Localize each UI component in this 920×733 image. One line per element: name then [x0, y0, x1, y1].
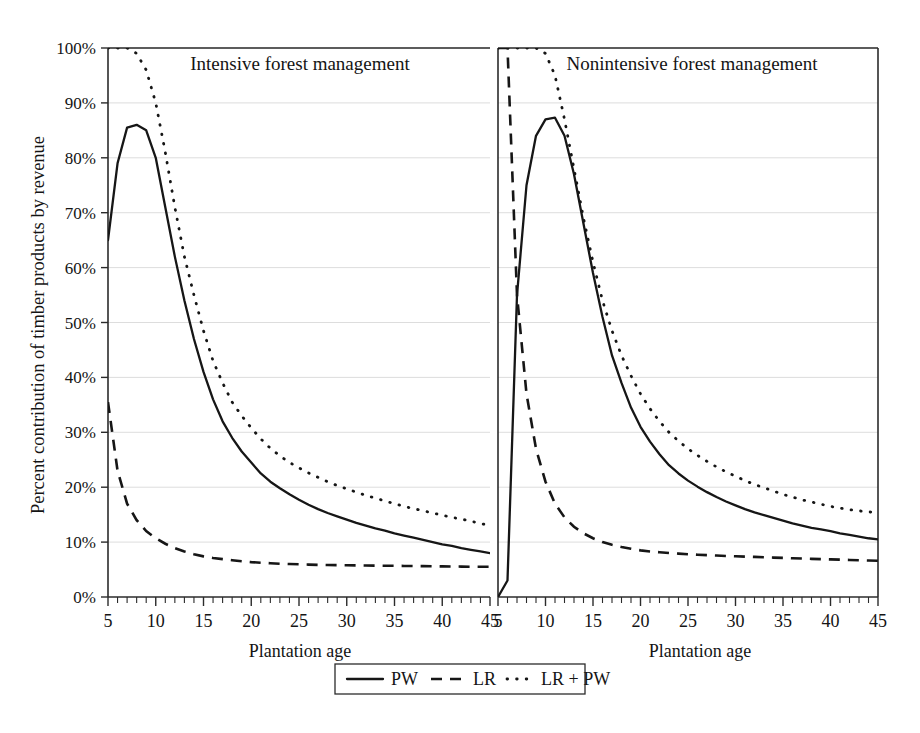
y-axis-tick-label: 0% [73, 588, 96, 607]
x-axis-tick-label: 25 [679, 611, 697, 631]
x-axis-tick-label: 5 [104, 611, 113, 631]
x-axis-tick-label: 40 [822, 611, 840, 631]
x-axis-tick-label: 25 [290, 611, 308, 631]
x-axis-tick-label: 20 [242, 611, 260, 631]
legend-label-lr-pw: LR + PW [541, 669, 610, 689]
chart-canvas: Percent contribution of timber products … [0, 0, 920, 733]
x-axis-tick-label: 40 [433, 611, 451, 631]
x-axis-tick-label: 10 [147, 611, 165, 631]
y-axis-tick-label: 80% [65, 149, 96, 168]
x-axis-tick-label: 30 [338, 611, 356, 631]
series-line-pw [498, 118, 878, 597]
y-axis-tick-label: 90% [65, 94, 96, 113]
y-axis-title: Percent contribution of timber products … [28, 136, 48, 514]
series-line-pw [108, 125, 490, 553]
y-axis-tick-label: 70% [65, 204, 96, 223]
y-axis-tick-label: 10% [65, 533, 96, 552]
y-axis-tick-label: 40% [65, 368, 96, 387]
x-axis-tick-label: 35 [774, 611, 792, 631]
chart-legend: PWLRLR + PW [335, 664, 610, 694]
x-axis-tick-label: 45 [869, 611, 887, 631]
chart-figure: Percent contribution of timber products … [0, 0, 920, 733]
x-axis-tick-label: 15 [584, 611, 602, 631]
y-axis-tick-label: 20% [65, 478, 96, 497]
panel-title: Intensive forest management [190, 53, 410, 74]
legend-label-lr: LR [473, 669, 496, 689]
y-axis-tick-label: 30% [65, 423, 96, 442]
x-axis-tick-label: 30 [727, 611, 745, 631]
y-axis-tick-label: 60% [65, 259, 96, 278]
series-line-lr-pw [108, 48, 490, 526]
series-group [108, 48, 490, 567]
x-axis-title: Plantation age [649, 641, 751, 661]
y-axis-tick-label: 100% [56, 39, 96, 58]
panel-intensive: 0%10%20%30%40%50%60%70%80%90%100%5101520… [56, 39, 499, 661]
panel-title: Nonintensive forest management [566, 53, 818, 74]
panel-nonintensive: 51015202530354045Nonintensive forest man… [494, 48, 888, 661]
series-line-lr [498, 48, 878, 561]
x-axis-tick-label: 10 [537, 611, 555, 631]
x-axis-title: Plantation age [249, 641, 351, 661]
y-axis-tick-label: 50% [65, 314, 96, 333]
x-axis-tick-label: 35 [386, 611, 404, 631]
x-axis-tick-label: 5 [494, 611, 503, 631]
x-axis-tick-label: 20 [632, 611, 650, 631]
x-axis-tick-label: 15 [195, 611, 213, 631]
legend-label-pw: PW [391, 669, 418, 689]
